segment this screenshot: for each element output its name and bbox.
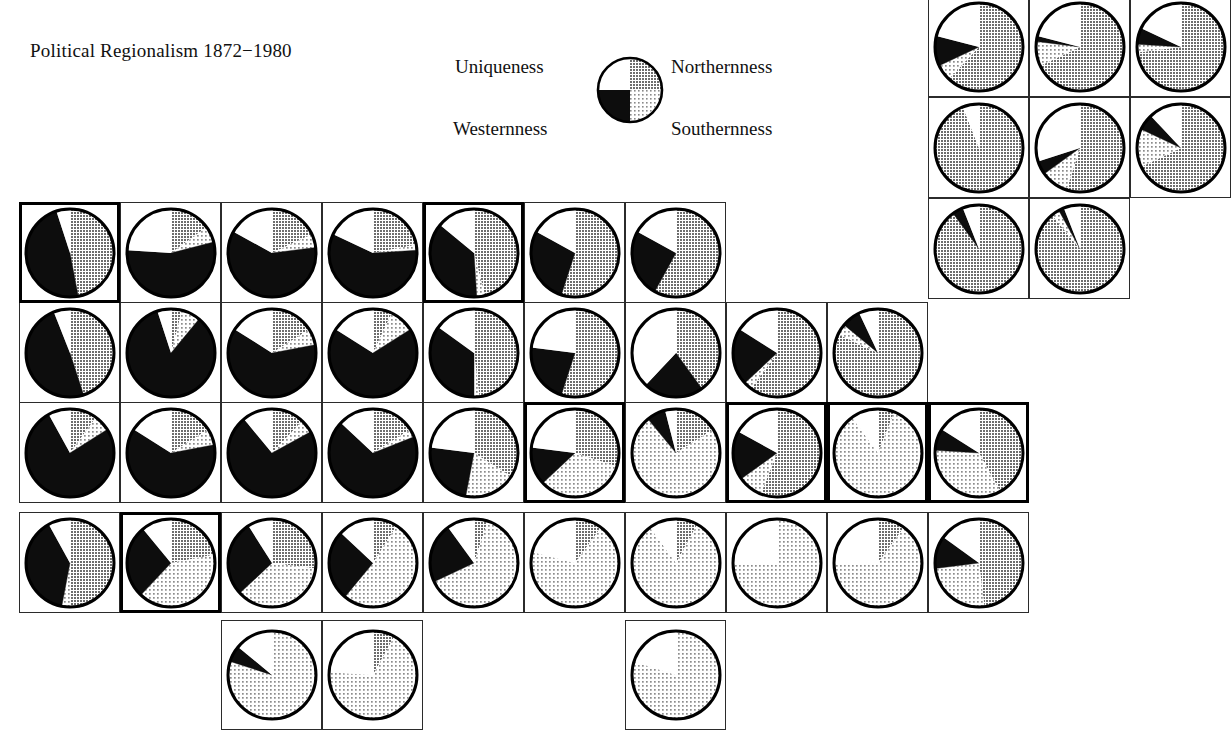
state-pie-cell[interactable] [726, 402, 827, 503]
state-pie-cell[interactable] [423, 202, 524, 303]
state-pie-cell[interactable] [1029, 0, 1130, 97]
pie-chart [929, 513, 1029, 613]
state-pie-cell[interactable] [19, 302, 120, 403]
state-pie-cell[interactable] [322, 202, 423, 303]
state-pie-cell[interactable] [928, 0, 1029, 97]
state-pie-cell[interactable] [726, 302, 827, 403]
state-pie-cell[interactable] [928, 512, 1029, 613]
state-pie-cell[interactable] [1029, 198, 1130, 299]
state-pie-cell[interactable] [928, 97, 1029, 198]
pie-chart [20, 203, 120, 303]
pie-chart [20, 403, 120, 503]
pie-slice-northernness [70, 519, 114, 607]
pie-chart [525, 403, 625, 503]
state-pie-cell[interactable] [19, 202, 120, 303]
pie-chart [1131, 98, 1231, 198]
pie-chart [626, 625, 726, 725]
state-pie-cell[interactable] [423, 302, 524, 403]
pie-chart [424, 513, 524, 613]
pie-chart [323, 303, 423, 403]
state-pie-cell[interactable] [120, 202, 221, 303]
pie-chart [626, 303, 726, 403]
state-pie-cell[interactable] [827, 402, 928, 503]
state-pie-cell[interactable] [322, 620, 423, 730]
state-pie-cell[interactable] [726, 512, 827, 613]
state-pie-cell[interactable] [1130, 97, 1231, 198]
state-pie-cell[interactable] [120, 302, 221, 403]
state-pie-cell[interactable] [625, 302, 726, 403]
state-pie-cell[interactable] [221, 402, 322, 503]
pie-chart [929, 403, 1029, 503]
pie-chart [323, 625, 423, 725]
state-pie-cell[interactable] [19, 512, 120, 613]
state-pie-cell[interactable] [1130, 0, 1231, 97]
pie-chart [424, 303, 524, 403]
state-pie-cell[interactable] [524, 202, 625, 303]
pie-chart [121, 513, 221, 613]
state-pie-cell[interactable] [827, 512, 928, 613]
pie-chart [20, 303, 120, 403]
legend-label-westernness: Westernness [453, 118, 548, 140]
state-pie-cell[interactable] [221, 620, 322, 730]
state-pie-cell[interactable] [928, 402, 1029, 503]
pie-chart [222, 203, 322, 303]
state-pie-cell[interactable] [625, 202, 726, 303]
pie-chart [929, 98, 1029, 198]
pie-chart [222, 513, 322, 613]
pie-chart [121, 203, 221, 303]
state-pie-cell[interactable] [625, 402, 726, 503]
legend-key-pie [594, 54, 666, 126]
state-pie-cell[interactable] [524, 302, 625, 403]
pie-slice-northernness [70, 209, 114, 296]
pie-chart [525, 203, 625, 303]
pie-slice-northernness [979, 519, 1023, 607]
state-pie-cell[interactable] [1029, 97, 1130, 198]
pie-slice-southernness [935, 563, 984, 607]
state-pie-cell[interactable] [322, 512, 423, 613]
legend-label-uniqueness: Uniqueness [455, 56, 544, 78]
pie-chart [222, 625, 322, 725]
state-pie-cell[interactable] [928, 198, 1029, 299]
pie-chart [323, 513, 423, 613]
state-pie-cell[interactable] [524, 402, 625, 503]
legend-label-southernness: Southernness [671, 118, 772, 140]
pie-chart [323, 203, 423, 303]
pie-chart [424, 403, 524, 503]
pie-chart [525, 303, 625, 403]
pie-chart [424, 203, 524, 303]
state-pie-cell[interactable] [625, 512, 726, 613]
state-pie-cell[interactable] [423, 402, 524, 503]
state-pie-cell[interactable] [322, 302, 423, 403]
pie-chart [1030, 98, 1130, 198]
pie-chart [929, 199, 1029, 299]
state-pie-cell[interactable] [120, 512, 221, 613]
pie-chart [121, 303, 221, 403]
pie-chart [1030, 199, 1130, 299]
pie-chart [20, 513, 120, 613]
state-pie-cell[interactable] [827, 302, 928, 403]
state-pie-cell[interactable] [221, 512, 322, 613]
pie-chart [828, 303, 928, 403]
state-pie-cell[interactable] [120, 402, 221, 503]
pie-chart [828, 403, 928, 503]
pie-chart [626, 513, 726, 613]
pie-chart [525, 513, 625, 613]
pie-chart [626, 203, 726, 303]
pie-chart [828, 513, 928, 613]
pie-chart [222, 303, 322, 403]
state-pie-cell[interactable] [221, 202, 322, 303]
pie-chart [626, 403, 726, 503]
state-pie-cell[interactable] [322, 402, 423, 503]
state-pie-cell[interactable] [524, 512, 625, 613]
pie-slice-northernness [474, 309, 518, 397]
pie-chart [1030, 0, 1130, 97]
state-pie-cell[interactable] [19, 402, 120, 503]
legend-label-northernness: Northernness [671, 56, 772, 78]
legend: Uniqueness Northernness Westernness Sout… [455, 42, 805, 147]
state-pie-cell[interactable] [423, 512, 524, 613]
state-pie-cell[interactable] [625, 620, 726, 730]
state-pie-cell[interactable] [221, 302, 322, 403]
figure-title: Political Regionalism 1872−1980 [30, 40, 292, 62]
pie-chart [727, 513, 827, 613]
